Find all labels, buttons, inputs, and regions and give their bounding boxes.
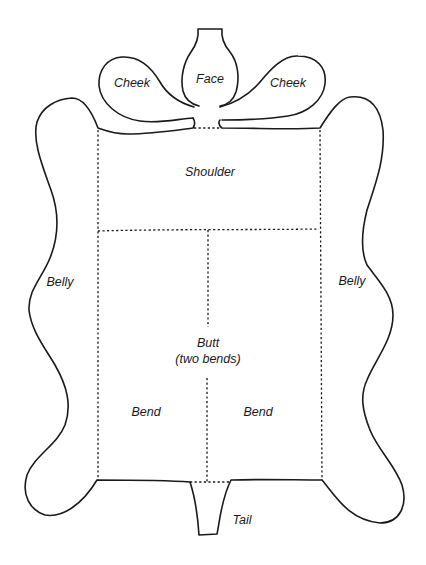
label-belly-left: Belly xyxy=(46,275,74,289)
label-face: Face xyxy=(196,72,224,86)
label-butt-sub: (two bends) xyxy=(175,352,240,366)
label-belly-right: Belly xyxy=(338,274,366,288)
label-cheek-right: Cheek xyxy=(270,76,307,90)
face-outline xyxy=(182,29,238,106)
label-bend-right: Bend xyxy=(243,405,273,419)
hide-outline xyxy=(25,97,404,535)
label-bend-left: Bend xyxy=(131,405,161,419)
hide-cut-diagram: Face Cheek Cheek Shoulder Belly Belly Bu… xyxy=(0,0,426,565)
label-cheek-left: Cheek xyxy=(114,76,151,90)
label-shoulder: Shoulder xyxy=(185,165,236,179)
label-butt: Butt xyxy=(197,336,220,350)
cut-line-right xyxy=(320,130,322,480)
label-tail: Tail xyxy=(233,513,253,527)
